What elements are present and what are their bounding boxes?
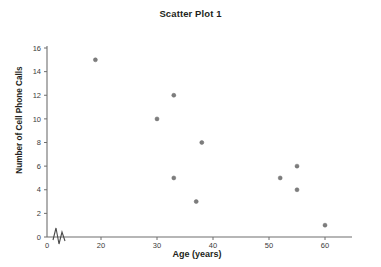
data-point: [172, 176, 176, 180]
axis-break-icon: [53, 228, 65, 244]
y-tick-label: 0: [37, 233, 41, 242]
y-tick-label: 8: [37, 138, 41, 147]
x-tick-label: 50: [265, 241, 273, 250]
x-tick-label: 40: [209, 241, 217, 250]
data-point: [200, 141, 204, 145]
scatter-plot-figure: Scatter Plot 1 Number of Cell Phone Call…: [0, 0, 381, 267]
data-point: [155, 117, 159, 121]
y-tick-label: 2: [37, 209, 41, 218]
plot-area: 0246810121416 02030405060: [0, 0, 381, 267]
data-point: [93, 58, 97, 62]
data-point: [278, 176, 282, 180]
x-tick-label: 20: [97, 241, 105, 250]
data-point: [295, 188, 299, 192]
x-tick-label: 0: [45, 241, 49, 250]
y-tick-label: 14: [33, 67, 41, 76]
y-axis-ticks: 0246810121416: [33, 44, 47, 242]
data-point: [323, 223, 327, 227]
x-tick-label: 30: [153, 241, 161, 250]
y-tick-label: 4: [37, 185, 41, 194]
data-point: [295, 164, 299, 168]
data-point: [194, 200, 198, 204]
y-tick-label: 12: [33, 91, 41, 100]
x-tick-label: 60: [321, 241, 329, 250]
y-tick-label: 16: [33, 44, 41, 53]
data-points: [93, 58, 327, 227]
y-tick-label: 6: [37, 162, 41, 171]
y-tick-label: 10: [33, 115, 41, 124]
x-axis-ticks: 02030405060: [45, 237, 329, 250]
data-point: [172, 93, 176, 97]
